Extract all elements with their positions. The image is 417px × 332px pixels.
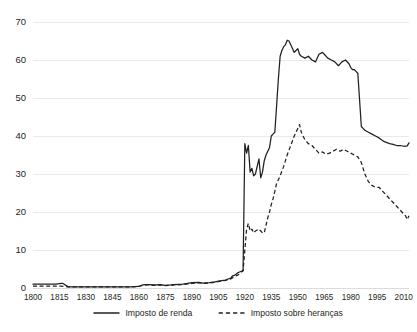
x-axis-tick-label: 1950 [289,293,308,302]
x-axis-tick-label: 2010 [395,293,414,302]
series-line-income-tax [33,40,409,287]
tax-rate-line-chart: 010203040506070 180018151830184518601875… [0,0,417,332]
x-axis-tick-label: 1920 [236,293,255,302]
x-axis-tick-label: 1875 [156,293,175,302]
y-axis-tick-label: 10 [15,244,26,255]
data-series [33,40,409,287]
y-axis-tick-label: 0 [21,282,26,293]
x-axis-tick-label: 1800 [24,293,43,302]
chart-canvas: 010203040506070 180018151830184518601875… [0,0,417,332]
x-axis-tick-label: 1965 [315,293,334,302]
x-axis-tick-label: 1815 [50,293,69,302]
x-axis-tick-label: 1980 [342,293,361,302]
x-axis-tick-labels: 1800181518301845186018751890190519201935… [24,293,413,302]
x-axis-tick-label: 1890 [183,293,202,302]
y-axis-tick-label: 70 [15,16,26,27]
y-axis-tick-label: 40 [15,130,26,141]
y-axis-tick-label: 30 [15,168,26,179]
gridlines [33,23,409,289]
y-axis-tick-labels: 010203040506070 [15,16,26,293]
x-axis-tick-label: 1905 [209,293,228,302]
y-axis-tick-label: 50 [15,92,26,103]
series-line-inheritance-tax [33,125,409,287]
x-axis-tick-label: 1935 [262,293,281,302]
y-axis-tick-label: 60 [15,54,26,65]
legend-label-income-tax: Imposto de renda [125,308,192,318]
x-axis-tick-label: 1830 [77,293,96,302]
legend-label-inheritance-tax: Imposto sobre heranças [251,308,343,318]
chart-legend: Imposto de rendaImposto sobre heranças [93,308,342,318]
y-axis-tick-label: 20 [15,206,26,217]
x-axis-tick-label: 1845 [103,293,122,302]
x-axis-tick-label: 1860 [130,293,149,302]
x-axis-tick-label: 1995 [368,293,387,302]
